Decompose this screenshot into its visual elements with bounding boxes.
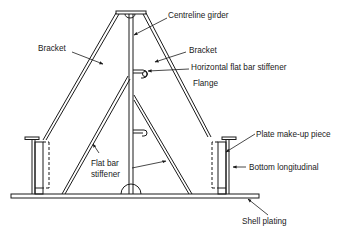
label-horizontal-flat-bar-stiffener: Horizontal flat bar stiffener [191,63,286,72]
bracket-floor-diagram: Centreline girder Bracket Bracket Horizo… [0,0,343,233]
label-centreline-girder: Centreline girder [168,11,229,20]
label-plate-makeup-piece: Plate make-up piece [256,130,331,139]
label-bottom-longitudinal: Bottom longitudinal [249,163,319,172]
label-flange: Flange [193,79,218,88]
label-bracket-right: Bracket [189,46,217,55]
label-flat-bar-line2: stiffener [91,170,120,179]
label-flat-bar-line1: Flat bar [91,159,119,168]
plate-makeup-right [218,142,226,194]
structure-drawing [0,0,343,233]
drain-hole [121,184,141,194]
shell-plating [11,194,259,198]
plate-makeup-left [35,142,43,194]
centreline-girder-flange [116,11,146,14]
label-bracket-left: Bracket [38,44,66,53]
label-shell-plating: Shell plating [242,217,287,226]
